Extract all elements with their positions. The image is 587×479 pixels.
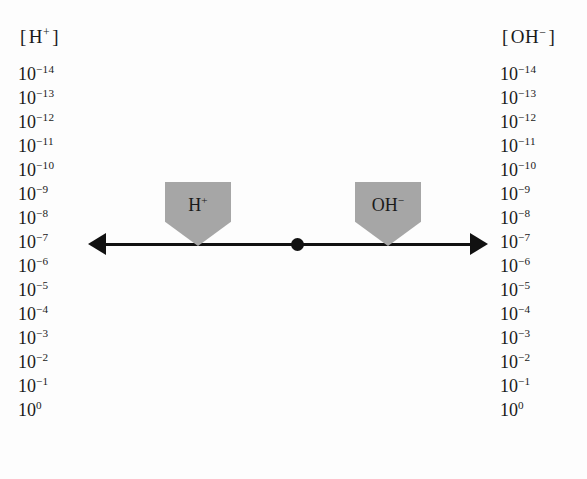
right-tick--7: 10−7 [500,230,536,254]
tick-base: 10 [18,64,36,84]
marker-oh-minus-species: OH [372,195,398,215]
left-tick--9: 10−9 [18,182,54,206]
right-tick--11: 10−11 [500,134,536,158]
right-tick--5: 10−5 [500,278,536,302]
right-tick--3: 10−3 [500,326,536,350]
left-tick--11: 10−11 [18,134,54,158]
tick-base: 10 [500,232,518,252]
left-tick--5: 10−5 [18,278,54,302]
tick-base: 10 [500,328,518,348]
tick-base: 10 [18,184,36,204]
left-tick--2: 10−2 [18,350,54,374]
tick-base: 10 [18,136,36,156]
tick-exponent: −14 [36,63,54,75]
tick-base: 10 [500,280,518,300]
tick-exponent: −2 [518,351,530,363]
right-tick--2: 10−2 [500,350,536,374]
tick-exponent: −7 [36,231,48,243]
left-tick--8: 10−8 [18,206,54,230]
left-tick-0: 100 [18,398,54,422]
right-tick-list: 10−1410−1310−1210−1110−1010−910−810−710−… [500,62,536,422]
tick-exponent: −7 [518,231,530,243]
tick-exponent: −1 [36,375,48,387]
left-tick-list: 10−1410−1310−1210−1110−1010−910−810−710−… [18,62,54,422]
tick-exponent: −4 [36,303,48,315]
tick-base: 10 [18,256,36,276]
left-tick--12: 10−12 [18,110,54,134]
marker-h-plus-label: H+ [165,195,231,216]
marker-h-plus-species: H [188,195,201,215]
right-header-open-bracket: [ [500,26,511,47]
tick-exponent: −11 [36,135,54,147]
tick-base: 10 [18,280,36,300]
tick-base: 10 [18,232,36,252]
tick-base: 10 [18,160,36,180]
tick-exponent: 0 [518,399,524,411]
marker-h-plus-charge: + [201,194,207,206]
tick-exponent: −3 [36,327,48,339]
tick-base: 10 [500,304,518,324]
tick-base: 10 [18,400,36,420]
left-scale-header: [H+] [18,26,61,48]
tick-exponent: −13 [518,87,536,99]
tick-exponent: −5 [518,279,530,291]
left-tick--14: 10−14 [18,62,54,86]
neutral-point-dot [291,238,304,251]
left-tick--10: 10−10 [18,158,54,182]
tick-base: 10 [500,64,518,84]
tick-exponent: 0 [36,399,42,411]
tick-exponent: −2 [36,351,48,363]
tick-base: 10 [500,160,518,180]
right-header-close-bracket: ] [546,26,557,47]
ph-concentration-diagram: [H+] 10−1410−1310−1210−1110−1010−910−810… [0,0,587,479]
tick-exponent: −3 [518,327,530,339]
tick-exponent: −5 [36,279,48,291]
right-tick--6: 10−6 [500,254,536,278]
left-tick--3: 10−3 [18,326,54,350]
tick-exponent: −13 [36,87,54,99]
right-tick--4: 10−4 [500,302,536,326]
right-tick-0: 100 [500,398,536,422]
left-header-close-bracket: ] [50,26,61,47]
tick-exponent: −14 [518,63,536,75]
marker-oh-minus-label: OH− [355,195,421,216]
left-header-species: H [29,26,43,47]
tick-base: 10 [18,328,36,348]
tick-base: 10 [500,256,518,276]
tick-base: 10 [500,208,518,228]
tick-exponent: −6 [518,255,530,267]
tick-exponent: −6 [36,255,48,267]
tick-exponent: −9 [36,183,48,195]
tick-exponent: −1 [518,375,530,387]
tick-base: 10 [18,376,36,396]
left-tick--7: 10−7 [18,230,54,254]
marker-oh-minus: OH− [355,182,421,246]
tick-base: 10 [18,88,36,108]
left-header-open-bracket: [ [18,26,29,47]
neutrality-axis [88,228,488,260]
tick-base: 10 [500,136,518,156]
tick-base: 10 [18,112,36,132]
right-tick--10: 10−10 [500,158,536,182]
marker-oh-minus-charge: − [398,194,404,206]
right-tick--14: 10−14 [500,62,536,86]
tick-base: 10 [500,400,518,420]
tick-exponent: −10 [518,159,536,171]
right-tick--1: 10−1 [500,374,536,398]
tick-base: 10 [18,208,36,228]
tick-exponent: −9 [518,183,530,195]
right-tick--12: 10−12 [500,110,536,134]
tick-exponent: −11 [518,135,536,147]
tick-base: 10 [18,304,36,324]
arrow-right-icon [470,233,488,255]
marker-h-plus: H+ [165,182,231,246]
right-scale-header: [OH−] [500,26,557,48]
tick-base: 10 [18,352,36,372]
right-tick--8: 10−8 [500,206,536,230]
tick-base: 10 [500,112,518,132]
left-tick--4: 10−4 [18,302,54,326]
tick-base: 10 [500,352,518,372]
tick-base: 10 [500,184,518,204]
tick-base: 10 [500,88,518,108]
tick-exponent: −12 [518,111,536,123]
